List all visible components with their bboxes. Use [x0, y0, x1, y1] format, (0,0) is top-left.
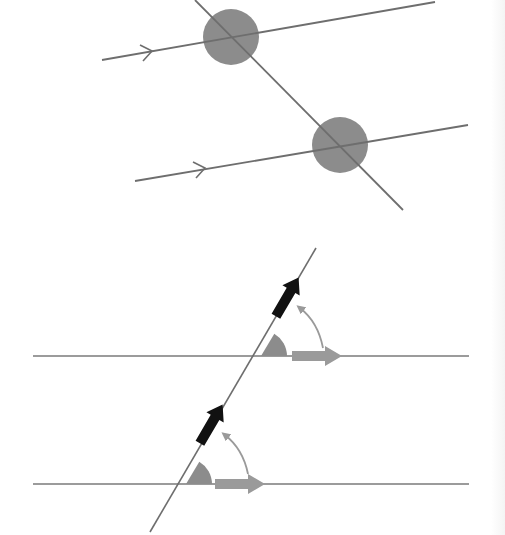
bottom-diagram	[33, 248, 469, 532]
horizontal-arrow-bottom	[215, 474, 265, 494]
parallel-line-lower	[135, 125, 468, 181]
top-diagram	[102, 0, 468, 210]
rotation-arrow-bottom	[225, 435, 248, 474]
horizontal-arrow-top	[292, 346, 342, 366]
angle-wedge-top	[261, 334, 287, 356]
rotation-arrow-top	[300, 308, 323, 348]
transversal-arrow-bottom	[191, 399, 231, 448]
transversal-line	[195, 0, 403, 210]
parallel-lines-diagram	[0, 0, 505, 535]
transversal-arrow-top	[267, 272, 307, 321]
